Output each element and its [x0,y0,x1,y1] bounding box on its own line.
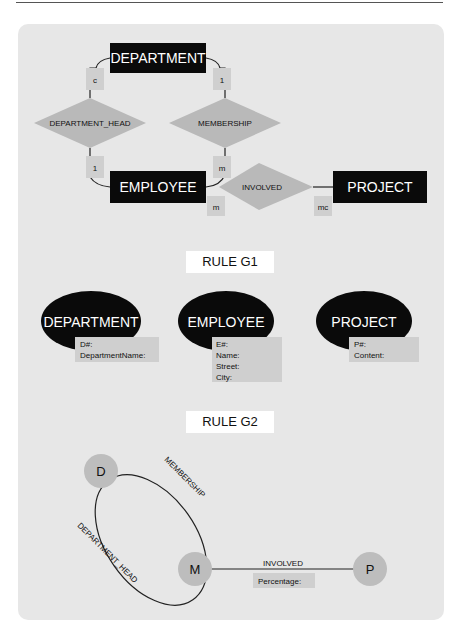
attr-employee-2: Street: [216,362,240,371]
cardinality-dept-head-employee: 1 [93,164,98,173]
relationship-department-head-label: DEPARTMENT_HEAD [49,119,130,128]
node-m-label: M [190,562,201,577]
node-d[interactable]: D [84,454,118,488]
node-p-label: P [366,562,375,577]
entity-project[interactable]: PROJECT [333,171,427,203]
attr-employee-3: City: [216,373,232,382]
edge-department-head-label: DEPARTMENT_HEAD [76,521,140,585]
rule-g2-graph: D M P MEMBERSHIP DEPARTMENT_HEAD INVOLVE… [72,454,387,626]
edge-involved-label: INVOLVED [263,559,303,568]
rule-g1-label: RULE G1 [186,251,274,273]
cardinality-membership-department: 1 [220,76,225,85]
node-p[interactable]: P [353,552,387,586]
er-diagram-canvas: DEPARTMENT EMPLOYEE PROJECT DEPARTMENT_H… [0,0,459,635]
attr-department-0: D#: [80,340,92,349]
attr-project-1: Content: [354,351,384,360]
relationship-involved[interactable]: INVOLVED [219,163,313,210]
attr-employee-0: E#: [216,340,228,349]
entity-department[interactable]: DEPARTMENT [110,43,206,73]
node-m[interactable]: M [178,552,212,586]
entity-project-label: PROJECT [347,179,413,195]
rule-g1-department[interactable]: DEPARTMENT D#: DepartmentName: [41,291,159,362]
relationship-involved-label: INVOLVED [242,183,282,192]
relationship-membership-label: MEMBERSHIP [198,119,252,128]
rule-g1-project[interactable]: PROJECT P#: Content: [316,291,419,362]
cardinality-involved-project: mc [318,203,329,212]
attr-department-1: DepartmentName: [80,351,145,360]
table-employee-name: EMPLOYEE [187,314,264,330]
cardinality-membership-employee: m [219,164,226,173]
relationship-department-head[interactable]: DEPARTMENT_HEAD [34,98,146,148]
involved-attribute-label: Percentage: [258,577,301,586]
rule-g1-employee[interactable]: EMPLOYEE E#: Name: Street: City: [178,291,282,382]
entity-employee-label: EMPLOYEE [119,179,196,195]
cardinality-dept-head-department: c [93,76,97,85]
table-department-name: DEPARTMENT [43,314,139,330]
rule-g2-label: RULE G2 [186,411,274,433]
attr-project-0: P#: [354,340,366,349]
cardinality-involved-employee: m [213,203,220,212]
relationship-membership[interactable]: MEMBERSHIP [169,98,281,148]
table-project-name: PROJECT [331,314,397,330]
attr-employee-1: Name: [216,351,240,360]
entity-department-label: DEPARTMENT [110,50,206,66]
node-d-label: D [96,464,105,479]
entity-employee[interactable]: EMPLOYEE [110,171,206,203]
